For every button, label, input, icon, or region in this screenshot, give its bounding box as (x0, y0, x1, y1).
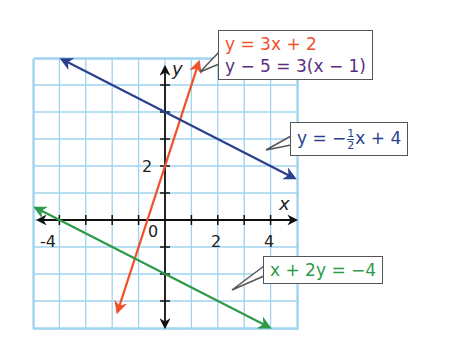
fraction-numerator: 1 (347, 128, 354, 140)
x-axis-label: x (279, 193, 290, 214)
y-tick-label-2: 2 (142, 157, 152, 176)
y-axis-label: y (172, 58, 183, 79)
fraction-denominator: 2 (347, 140, 354, 151)
callout-pointer-blue (266, 136, 291, 150)
fraction-one-half: 12 (347, 128, 354, 151)
equation-slope-intercept: y = 3x + 2 (225, 33, 366, 55)
equation-blue-pre: y = − (297, 128, 346, 148)
origin-label: 0 (148, 222, 158, 241)
callout-pointer-orange (200, 52, 219, 72)
callout-pointer-green (232, 266, 264, 290)
callout-green-equation: x + 2y = −4 (263, 256, 383, 284)
callout-blue-equation: y = −12x + 4 (290, 122, 408, 156)
x-tick-label-2: 2 (211, 232, 221, 251)
equation-blue-post: x + 4 (355, 128, 401, 148)
x-tick-label-4: 4 (264, 232, 274, 251)
x-tick-label-neg4: -4 (40, 232, 56, 251)
callout-orange-equations: y = 3x + 2 y − 5 = 3(x − 1) (218, 30, 373, 80)
graph-figure: y x 0 -4 2 4 2 y = 3x + 2 y − 5 = 3(x − … (0, 0, 452, 350)
equation-point-slope: y − 5 = 3(x − 1) (225, 55, 366, 77)
grid-border (34, 59, 298, 329)
